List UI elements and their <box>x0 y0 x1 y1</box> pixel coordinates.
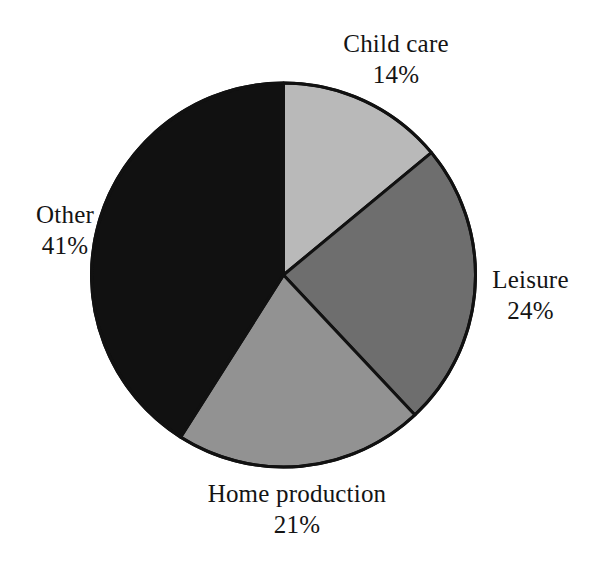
slice-label-home-production-name: Home production <box>162 479 432 510</box>
pie-slice-group <box>92 83 476 467</box>
slice-label-child-care-value: 14% <box>311 60 481 91</box>
slice-label-other: Other 41% <box>5 200 125 261</box>
slice-label-leisure: Leisure 24% <box>468 265 593 326</box>
slice-label-home-production-value: 21% <box>162 510 432 541</box>
pie-chart-figure: Child care 14% Leisure 24% Home producti… <box>0 0 593 561</box>
slice-label-leisure-name: Leisure <box>468 265 593 296</box>
slice-label-other-name: Other <box>5 200 125 231</box>
slice-label-home-production: Home production 21% <box>162 479 432 540</box>
slice-label-other-value: 41% <box>5 231 125 262</box>
slice-label-leisure-value: 24% <box>468 296 593 327</box>
slice-label-child-care: Child care 14% <box>311 29 481 90</box>
slice-label-child-care-name: Child care <box>311 29 481 60</box>
